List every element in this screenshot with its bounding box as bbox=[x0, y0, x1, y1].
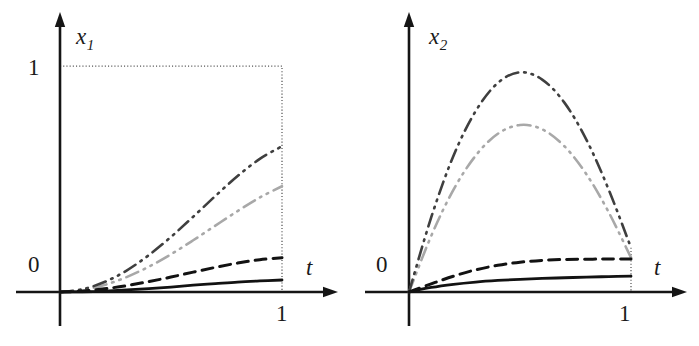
x-axis-label-t: t bbox=[306, 256, 312, 279]
unit-box-guide bbox=[60, 66, 282, 292]
data-curve-curve-dark-dashdotdot bbox=[60, 146, 282, 292]
data-curve-curve-gray-dashdotdot bbox=[409, 125, 631, 292]
plot-panel-x2: x2 0 1 t bbox=[349, 0, 699, 346]
x-axis-arrow bbox=[323, 287, 338, 297]
y-axis-arrow bbox=[404, 12, 414, 27]
plot-panel-x1: x1 1 0 1 t bbox=[0, 0, 350, 346]
data-curve-curve-dark-dashdotdot bbox=[409, 72, 631, 292]
origin-label-zero: 0 bbox=[28, 253, 40, 276]
x-tick-label-one: 1 bbox=[276, 302, 288, 325]
origin-label-zero-right: 0 bbox=[376, 253, 388, 276]
y-axis-label-x2: x2 bbox=[429, 25, 447, 53]
y-tick-label-one: 1 bbox=[28, 56, 40, 79]
figure-canvas: x1 1 0 1 t x2 0 1 t bbox=[0, 0, 699, 346]
y-axis-arrow bbox=[55, 12, 65, 27]
plot-svg-x2 bbox=[349, 0, 699, 346]
plot-svg-x1 bbox=[0, 0, 350, 346]
y-axis-label-x1: x1 bbox=[76, 25, 94, 53]
x-axis-label-t-right: t bbox=[654, 256, 660, 279]
x-axis-arrow bbox=[672, 287, 687, 297]
x-tick-label-one-right: 1 bbox=[619, 302, 631, 325]
